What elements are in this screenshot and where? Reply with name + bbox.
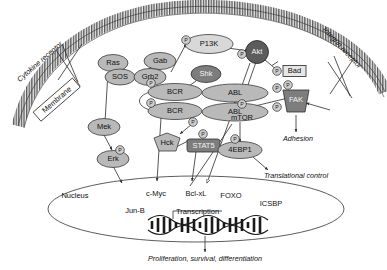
phospho-mtor: P <box>238 100 247 109</box>
pathway-diagram: Cytokine receptor Membrane Integrin rece… <box>0 0 387 270</box>
nucleus-target-c-myc: c-Myc <box>146 189 166 198</box>
node-mtor-label: mTOR <box>231 113 254 122</box>
outcome-bottom: Proliferation, survival, differentiation <box>148 254 262 263</box>
nucleus-target-bcl-xl: Bcl-xL <box>186 189 207 198</box>
phospho-label: P <box>233 136 237 142</box>
diagram-canvas: Cytokine receptor Membrane Integrin rece… <box>0 0 387 270</box>
phospho-label: P <box>184 37 188 43</box>
nucleus-label: Nucleus <box>61 191 88 200</box>
node-akt-label: Akt <box>252 47 264 56</box>
node-abl-top[interactable]: ABL <box>202 84 268 102</box>
phospho-abl-top: P <box>273 84 282 93</box>
node-bcr-bottom[interactable]: BCR <box>148 103 202 120</box>
transcription-label: Transcription <box>176 207 219 216</box>
phospho-erk: P <box>116 146 125 155</box>
nucleus-target-jun-b: Jun-B <box>125 206 145 215</box>
phospho-bad: P <box>273 67 282 76</box>
outcome-translational-control: Translational control <box>264 171 329 180</box>
phospho-stat5: P <box>199 130 208 139</box>
phospho-label: P <box>275 85 279 91</box>
phospho-label: P <box>240 51 244 57</box>
phospho-label: P <box>275 68 279 74</box>
nucleus-target-foxo: FOXO <box>220 191 241 200</box>
node-shk[interactable]: Shk <box>191 66 221 83</box>
phospho-label: P <box>149 80 153 86</box>
node-bcr-bottom-label: BCR <box>167 106 183 115</box>
node-akt[interactable]: Akt <box>246 41 269 64</box>
phospho-label: P <box>275 104 279 110</box>
node-4ebp1[interactable]: 4EBP1 <box>218 142 262 159</box>
node-mek-label: Mek <box>97 122 111 131</box>
node-stat5[interactable]: STAT5 <box>187 139 220 152</box>
phospho-4ebp1: P <box>231 135 240 144</box>
membrane-label: Membrane <box>40 84 73 114</box>
dna-helix <box>148 216 268 235</box>
node-erk-label: Erk <box>107 154 119 163</box>
node-stat5-label: STAT5 <box>192 141 214 150</box>
node-gab[interactable]: Gab <box>144 53 176 70</box>
node-bad-label: Bad <box>288 66 301 75</box>
node-bad[interactable]: Bad <box>283 66 306 77</box>
node-pi3k[interactable]: P13K <box>185 35 233 54</box>
node-bcr-top-label: BCR <box>167 87 183 96</box>
node-4ebp1-label: 4EBP1 <box>228 145 251 154</box>
node-gab-label: Gab <box>153 56 167 65</box>
phospho-label: P <box>149 100 153 106</box>
outcome-adhesion: Adhesion <box>282 134 313 143</box>
node-abl-top-label: ABL <box>228 88 242 97</box>
phospho-label: P <box>286 82 290 88</box>
node-sos-label: SOS <box>112 72 128 81</box>
phospho-pi3k: P <box>182 36 191 45</box>
phospho-fak: P <box>284 81 293 90</box>
node-hck[interactable]: Hck <box>154 133 180 151</box>
phospho-abl-lower: P <box>189 118 198 127</box>
node-shk-label: Shk <box>200 69 213 78</box>
nucleus-target-icsbp: ICSBP <box>260 199 283 208</box>
phospho-label: P <box>191 119 195 125</box>
node-pi3k-label: P13K <box>200 39 218 48</box>
phospho-abl-bottom: P <box>273 103 282 112</box>
phospho-bcr-bottom: P <box>147 99 156 108</box>
node-hck-label: Hck <box>161 138 174 147</box>
node-fak-label: FAK <box>289 95 303 104</box>
phospho-label: P <box>118 147 122 153</box>
node-ras-label: Ras <box>106 58 120 67</box>
node-erk[interactable]: Erk <box>97 151 129 168</box>
phospho-label: P <box>201 131 205 137</box>
node-fak[interactable]: FAK <box>283 90 309 112</box>
node-bcr-top[interactable]: BCR <box>148 84 202 101</box>
phospho-akt: P <box>238 50 247 59</box>
phospho-label: P <box>240 101 244 107</box>
node-mtor[interactable]: mTOR <box>231 113 254 122</box>
node-sos[interactable]: SOS <box>105 69 135 85</box>
node-mek[interactable]: Mek <box>88 119 120 136</box>
phospho-bcr-top: P <box>147 79 156 88</box>
